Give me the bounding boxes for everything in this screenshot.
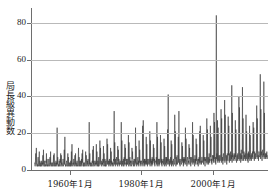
gridline-y-80 bbox=[31, 23, 268, 24]
x-tick-label-1980: 1980年1月 bbox=[118, 177, 163, 189]
y-tick-label-40: 40 bbox=[1, 90, 26, 100]
chart-container: 局長級異動数 020406080 1960年1月1980年1月2000年1月 bbox=[0, 0, 280, 195]
y-tick-mark-20 bbox=[27, 133, 31, 134]
series-path bbox=[35, 15, 268, 166]
y-tick-mark-0 bbox=[27, 170, 31, 171]
data-series-line bbox=[31, 8, 268, 170]
y-tick-mark-80 bbox=[27, 23, 31, 24]
gridline-y-40 bbox=[31, 96, 268, 97]
plot-area bbox=[31, 8, 268, 170]
gridline-y-60 bbox=[31, 60, 268, 61]
gridline-y-20 bbox=[31, 133, 268, 134]
x-tick-mark-2000 bbox=[213, 171, 214, 175]
x-tick-label-1960: 1960年1月 bbox=[47, 177, 92, 189]
y-axis-tick-labels: 020406080 bbox=[0, 0, 26, 195]
y-tick-mark-40 bbox=[27, 96, 31, 97]
x-tick-mark-1980 bbox=[141, 171, 142, 175]
x-axis-line bbox=[31, 170, 268, 171]
y-tick-label-0: 0 bbox=[1, 164, 26, 174]
x-tick-label-2000: 2000年1月 bbox=[190, 177, 235, 189]
y-tick-label-60: 60 bbox=[1, 54, 26, 64]
y-tick-label-80: 80 bbox=[1, 17, 26, 27]
y-tick-mark-60 bbox=[27, 60, 31, 61]
x-tick-mark-1960 bbox=[70, 171, 71, 175]
y-tick-label-20: 20 bbox=[1, 127, 26, 137]
